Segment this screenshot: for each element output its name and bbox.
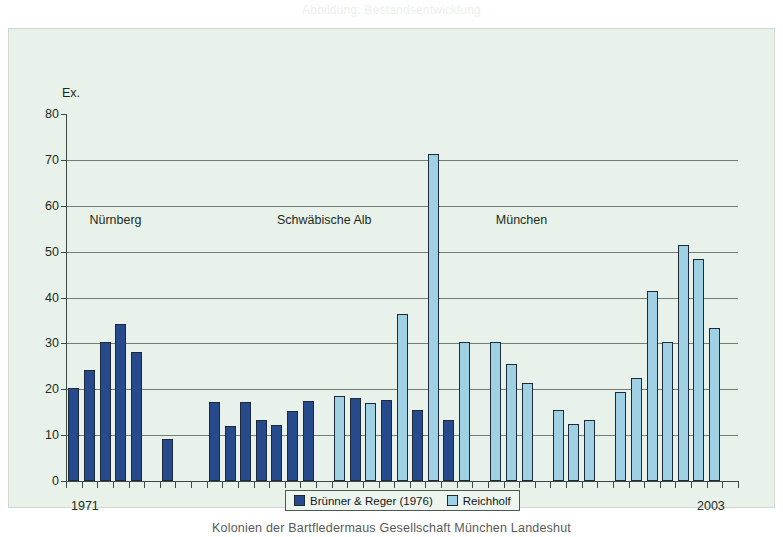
- x-tick: [504, 481, 505, 488]
- legend-label: Reichholf: [463, 495, 511, 507]
- x-tick: [519, 481, 520, 488]
- x-tick: [144, 481, 145, 488]
- bar: [365, 403, 376, 481]
- x-tick: [66, 481, 67, 488]
- legend-swatch-icon: [294, 495, 305, 506]
- x-tick: [222, 481, 223, 488]
- bar: [334, 396, 345, 481]
- bar: [225, 426, 236, 481]
- x-tick: [363, 481, 364, 488]
- x-tick: [285, 481, 286, 488]
- bar: [209, 402, 220, 481]
- x-tick: [175, 481, 176, 488]
- bar: [287, 411, 298, 481]
- x-tick: [394, 481, 395, 488]
- bar: [240, 402, 251, 481]
- y-axis-unit-label: Ex.: [62, 86, 80, 100]
- x-tick: [191, 481, 192, 488]
- bar: [162, 439, 173, 481]
- x-tick: [738, 481, 739, 488]
- bar: [303, 401, 314, 481]
- bar: [584, 420, 595, 481]
- bar: [131, 352, 142, 481]
- x-tick: [582, 481, 583, 488]
- x-tick: [269, 481, 270, 488]
- x-tick: [379, 481, 380, 488]
- bar: [568, 424, 579, 481]
- x-tick: [613, 481, 614, 488]
- bar: [68, 388, 79, 481]
- x-tick: [300, 481, 301, 488]
- x-tick: [550, 481, 551, 488]
- bar: [693, 259, 704, 481]
- x-axis-label-end: 2003: [697, 499, 725, 513]
- caption-top: Abbildung: Bestandsentwicklung: [0, 2, 783, 18]
- x-tick: [707, 481, 708, 488]
- x-tick: [644, 481, 645, 488]
- chart-legend[interactable]: Brünner & Reger (1976)Reichholf: [285, 490, 520, 511]
- x-tick: [254, 481, 255, 488]
- caption-bottom: Kolonien der Bartfledermaus Gesellschaft…: [0, 516, 783, 536]
- page-root: Abbildung: Bestandsentwicklung Ex. Nürnb…: [0, 0, 783, 537]
- x-axis-ticks: [66, 481, 738, 488]
- y-tick-label-70: 70: [9, 153, 59, 167]
- bar: [709, 328, 720, 481]
- bar: [615, 392, 626, 481]
- x-tick: [457, 481, 458, 488]
- bar: [459, 342, 470, 481]
- bar: [490, 342, 501, 481]
- y-tick-label-80: 80: [9, 107, 59, 121]
- y-tick-label-10: 10: [9, 428, 59, 442]
- bar: [428, 154, 439, 481]
- x-tick: [410, 481, 411, 488]
- x-tick: [441, 481, 442, 488]
- x-tick: [129, 481, 130, 488]
- x-tick: [488, 481, 489, 488]
- y-tick-label-60: 60: [9, 199, 59, 213]
- bar: [350, 398, 361, 481]
- bar: [412, 410, 423, 481]
- bar: [84, 370, 95, 481]
- x-tick: [160, 481, 161, 488]
- x-tick: [675, 481, 676, 488]
- bar: [256, 420, 267, 481]
- x-tick: [113, 481, 114, 488]
- x-tick: [238, 481, 239, 488]
- bar: [115, 324, 126, 481]
- y-tick-label-40: 40: [9, 291, 59, 305]
- bar-series-group: [66, 114, 738, 481]
- bar: [522, 383, 533, 481]
- bar: [553, 410, 564, 481]
- x-tick: [347, 481, 348, 488]
- x-tick: [629, 481, 630, 488]
- bar: [381, 400, 392, 481]
- x-tick: [97, 481, 98, 488]
- y-tick-label-30: 30: [9, 336, 59, 350]
- bar: [271, 425, 282, 481]
- bar: [100, 342, 111, 481]
- x-tick: [472, 481, 473, 488]
- bar: [443, 420, 454, 481]
- bar: [662, 342, 673, 481]
- bar: [506, 364, 517, 481]
- bar: [397, 314, 408, 481]
- legend-swatch-icon: [447, 495, 458, 506]
- x-tick: [566, 481, 567, 488]
- bar: [631, 378, 642, 481]
- x-tick: [597, 481, 598, 488]
- figure-panel: Ex. NürnbergSchwäbische AlbMünchen 01020…: [8, 28, 775, 508]
- y-tick-label-20: 20: [9, 382, 59, 396]
- legend-entry-reichholf[interactable]: Reichholf: [447, 495, 511, 507]
- x-tick: [332, 481, 333, 488]
- bar: [647, 291, 658, 481]
- legend-entry-bruenner-reger[interactable]: Brünner & Reger (1976): [294, 495, 433, 507]
- bar: [678, 245, 689, 481]
- x-axis-label-start: 1971: [71, 499, 99, 513]
- y-tick-label-0: 0: [9, 474, 59, 488]
- y-tick-label-50: 50: [9, 245, 59, 259]
- x-tick: [660, 481, 661, 488]
- x-tick: [535, 481, 536, 488]
- x-tick: [425, 481, 426, 488]
- x-tick: [722, 481, 723, 488]
- x-tick: [316, 481, 317, 488]
